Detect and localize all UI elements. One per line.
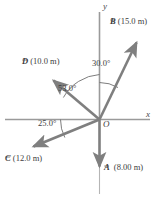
vector-label-B: B (15.0 m) [110, 17, 147, 26]
vector-symbol-D: D [22, 57, 28, 66]
vector-label-C: C (12.0 m) [5, 154, 42, 163]
vector-label-D: D (10.0 m) [22, 57, 60, 66]
angle-label-53: 53.0° [58, 84, 76, 93]
vector-symbol-A: A [104, 163, 110, 172]
angle-label-30: 30.0° [92, 59, 110, 68]
origin-label: O [103, 120, 110, 129]
vector-label-A: A (8.00 m) [104, 163, 143, 172]
vector-magnitude-D: (10.0 m) [30, 56, 59, 66]
angle-label-25: 25.0° [38, 119, 56, 128]
vector-magnitude-B: (15.0 m) [118, 16, 147, 26]
vector-magnitude-C: (12.0 m) [13, 153, 42, 163]
vector-B-arrow [100, 43, 137, 120]
x-axis-label: x [146, 110, 150, 119]
vector-symbol-C: C [5, 154, 11, 163]
vector-magnitude-A: (8.00 m) [114, 162, 143, 172]
vector-diagram: y x O 30.0° 53.0° 25.0° B (15.0 m) D (10… [0, 0, 158, 200]
y-axis-label: y [103, 2, 107, 11]
vector-symbol-B: B [110, 17, 116, 26]
